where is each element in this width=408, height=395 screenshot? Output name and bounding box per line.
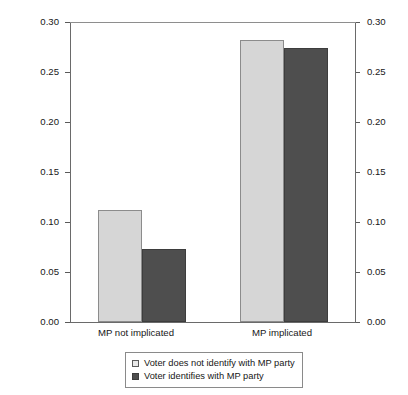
x-axis-label-mp-implicated: MP implicated	[222, 327, 342, 339]
bar-mp-not-implicated-does-not-identify	[98, 210, 142, 322]
y-tick-right-0.30: 0.30	[367, 17, 386, 27]
y-tick-right-0.00: 0.00	[367, 317, 386, 327]
y-tick-left-0.20: 0.20	[40, 117, 59, 127]
y-tick-left-0.15: 0.15	[40, 167, 59, 177]
y-axis-title: Probability of MP overclaimed perception	[2, 0, 16, 50]
y-tick-left-0.10: 0.10	[40, 217, 59, 227]
y-tick-right-0.20: 0.20	[367, 117, 386, 127]
legend-label-does-not-identify: Voter does not identify with MP party	[144, 358, 295, 369]
light-gray-square-icon	[132, 360, 139, 367]
y-tick-right-0.25: 0.25	[367, 67, 386, 77]
y-axis-right-ticks: 0.30 0.25 0.20 0.15 0.10 0.05 0.00	[361, 0, 395, 395]
dark-gray-square-icon	[132, 373, 139, 380]
legend-label-identifies: Voter identifies with MP party	[144, 371, 264, 382]
plot-area	[71, 22, 355, 322]
bar-mp-implicated-does-not-identify	[240, 40, 284, 322]
y-tick-left-0.00: 0.00	[40, 317, 59, 327]
bar-mp-implicated-identifies	[284, 48, 328, 322]
bar-mp-not-implicated-identifies	[142, 249, 186, 322]
x-axis-spine	[70, 322, 356, 323]
y-tick-right-0.05: 0.05	[367, 267, 386, 277]
legend: Voter does not identify with MP party Vo…	[125, 352, 303, 388]
y-tick-right-0.10: 0.10	[367, 217, 386, 227]
y-axis-left-ticks: 0.30 0.25 0.20 0.15 0.10 0.05 0.00	[31, 0, 65, 395]
x-axis-label-mp-not-implicated: MP not implicated	[76, 327, 196, 339]
y-tick-left-0.30: 0.30	[40, 17, 59, 27]
y-axis-right-spine	[355, 22, 356, 323]
y-tick-left-0.25: 0.25	[40, 67, 59, 77]
legend-item-does-not-identify: Voter does not identify with MP party	[132, 357, 295, 370]
y-tick-left-0.05: 0.05	[40, 267, 59, 277]
y-tick-right-0.15: 0.15	[367, 167, 386, 177]
bar-chart-figure: Probability of MP overclaimed perception…	[0, 0, 408, 395]
legend-item-identifies: Voter identifies with MP party	[132, 370, 295, 383]
